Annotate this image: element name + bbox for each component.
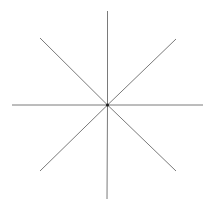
starburst-diagram	[0, 0, 213, 208]
ray-south	[107, 105, 108, 199]
center-point	[106, 103, 109, 106]
